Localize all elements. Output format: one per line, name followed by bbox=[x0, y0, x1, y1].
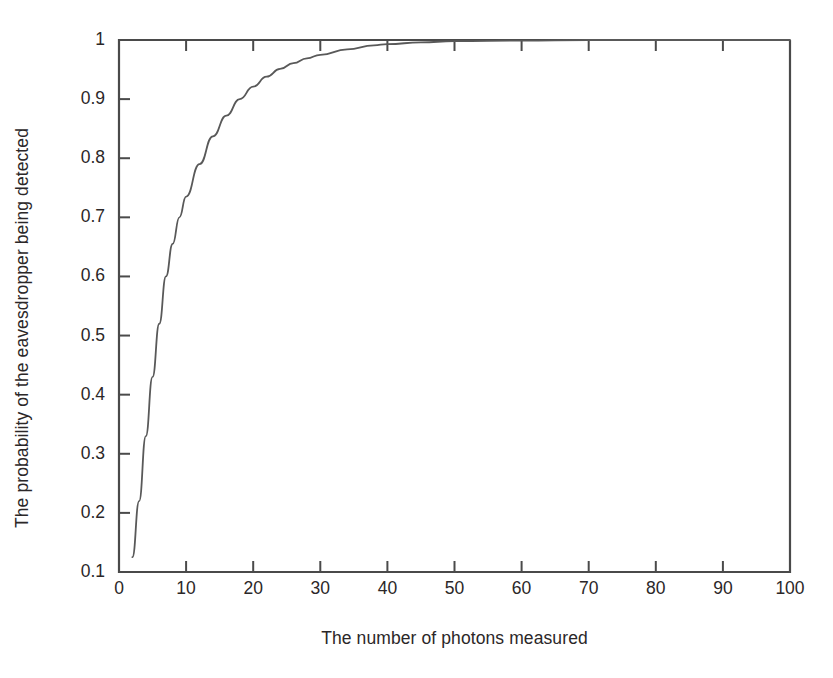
plot-area bbox=[0, 0, 833, 678]
y-axis-tick-marks bbox=[119, 99, 130, 572]
data-series-group bbox=[132, 40, 790, 557]
figure-canvas: The probability of the eavesdropper bein… bbox=[0, 0, 833, 678]
x-axis-tick-marks bbox=[186, 40, 723, 572]
axis-frame bbox=[119, 40, 790, 572]
